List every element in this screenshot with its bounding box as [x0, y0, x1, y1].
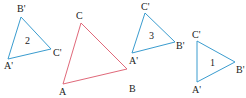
triangle-2: 2 A' B' C': [4, 3, 62, 71]
label-c-prime: C': [192, 29, 201, 40]
label-b-prime: B': [236, 64, 245, 75]
triangle-number-1: 1: [210, 57, 215, 68]
triangle-3: 3 A' B' C': [129, 1, 185, 66]
label-a-prime: A': [129, 55, 138, 66]
label-c-prime: C': [141, 1, 150, 12]
triangle-number-2: 2: [25, 35, 30, 46]
label-b-prime: B': [17, 3, 26, 14]
triangle-abc: A B C: [59, 10, 136, 97]
label-c-prime: C': [53, 47, 62, 58]
label-a-prime: A': [4, 60, 13, 71]
triangle-number-3: 3: [149, 30, 154, 41]
label-b: B: [129, 83, 136, 94]
triangle-1: 1 A' B' C': [192, 29, 245, 95]
label-c: C: [76, 10, 83, 21]
label-a: A: [59, 86, 67, 97]
triangles-diagram: A B C 2 A' B' C' 3 A' B' C' 1 A' B' C': [0, 0, 246, 98]
label-b-prime: B': [176, 40, 185, 51]
label-a-prime: A': [192, 84, 201, 95]
